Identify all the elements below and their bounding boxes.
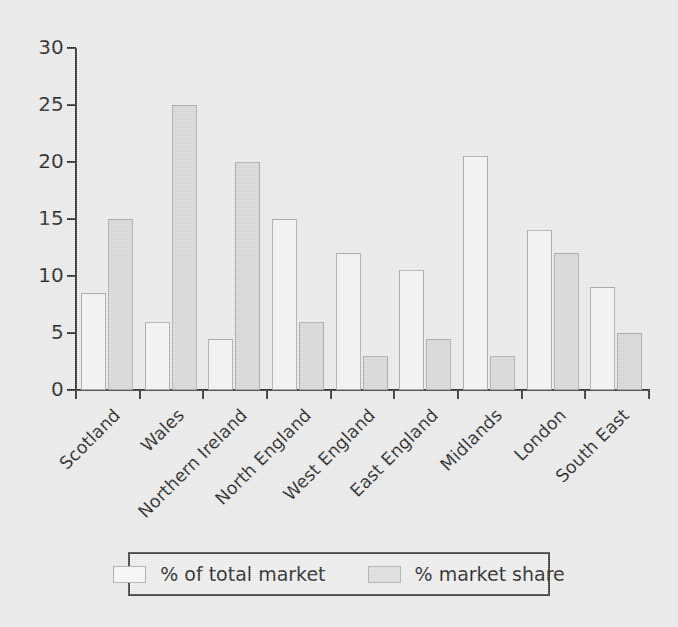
legend-label: % market share <box>415 563 565 585</box>
y-axis-tick-label: 20 <box>18 149 64 173</box>
x-axis-category-label: Northern Ireland <box>134 405 251 522</box>
bar <box>336 253 361 390</box>
legend-item-0: % of total market <box>113 563 325 585</box>
x-axis-tick <box>139 389 141 399</box>
y-axis-tick-label: 15 <box>18 206 64 230</box>
x-axis-tick <box>521 389 523 399</box>
bar <box>399 270 424 390</box>
bar <box>208 339 233 390</box>
y-axis-tick-label: 0 <box>18 377 64 401</box>
bar <box>426 339 451 390</box>
bar <box>172 105 197 390</box>
bar <box>490 356 515 390</box>
y-axis-tick-label: 10 <box>18 263 64 287</box>
y-axis-tick-label: 5 <box>18 320 64 344</box>
bar <box>145 322 170 390</box>
bar <box>463 156 488 390</box>
x-axis-category-label: Wales <box>137 405 188 456</box>
bar <box>299 322 324 390</box>
bar <box>617 333 642 390</box>
y-axis-tick-label: 30 <box>18 35 64 59</box>
chart-legend: % of total market % market share <box>128 552 550 596</box>
x-axis-tick <box>202 389 204 399</box>
x-axis-category-label: Scotland <box>55 405 124 474</box>
x-axis-category-label: Midlands <box>436 405 506 475</box>
bar <box>527 230 552 390</box>
x-axis-tick <box>584 389 586 399</box>
bar <box>108 219 133 390</box>
x-axis-tick <box>648 389 650 399</box>
legend-swatch-icon <box>368 566 401 583</box>
legend-label: % of total market <box>160 563 325 585</box>
bar <box>590 287 615 390</box>
bar <box>81 293 106 390</box>
plot-area: 051015202530 ScotlandWalesNorthern Irela… <box>0 0 678 540</box>
legend-item-1: % market share <box>368 563 565 585</box>
bar <box>554 253 579 390</box>
bar <box>272 219 297 390</box>
x-axis-tick <box>393 389 395 399</box>
bar <box>363 356 388 390</box>
bar <box>235 162 260 390</box>
legend-swatch-icon <box>113 566 146 583</box>
x-axis-tick <box>330 389 332 399</box>
bars-layer <box>75 48 648 390</box>
x-axis-tick <box>457 389 459 399</box>
bar-chart: 051015202530 ScotlandWalesNorthern Irela… <box>0 0 678 627</box>
x-axis-tick <box>75 389 77 399</box>
x-axis-category-label: London <box>510 405 570 465</box>
x-axis-tick <box>266 389 268 399</box>
y-axis-tick-label: 25 <box>18 92 64 116</box>
